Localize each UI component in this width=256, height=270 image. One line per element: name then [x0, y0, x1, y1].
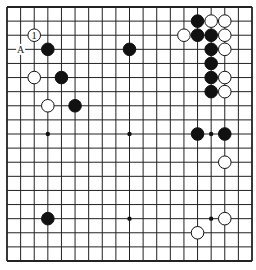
black-stone: [42, 43, 55, 56]
white-stone: [218, 15, 231, 28]
black-stone: [205, 57, 218, 70]
black-stone: [191, 15, 204, 28]
white-stone: [178, 29, 191, 42]
black-stone: [42, 212, 55, 225]
black-stone: [205, 85, 218, 98]
star-point: [127, 216, 131, 220]
white-stone: [218, 29, 231, 42]
go-board: 1A: [0, 0, 256, 270]
star-point: [127, 132, 131, 136]
star-point: [209, 132, 213, 136]
white-stone: [191, 226, 204, 239]
black-stone: [205, 71, 218, 84]
black-stone: [69, 99, 82, 112]
black-stone: [191, 128, 204, 141]
star-point: [46, 132, 50, 136]
black-stone: [55, 71, 68, 84]
letter-mark-label: A: [17, 44, 25, 55]
star-point: [209, 216, 213, 220]
black-stone: [218, 128, 231, 141]
white-stone: [218, 71, 231, 84]
white-stone: [42, 99, 55, 112]
black-stone: [205, 43, 218, 56]
go-board-diagram: 1A: [0, 0, 256, 270]
white-stone: [205, 15, 218, 28]
move-number-label: 1: [32, 30, 37, 41]
white-stone: [218, 43, 231, 56]
black-stone: [123, 43, 136, 56]
black-stone: [191, 29, 204, 42]
white-stone: [218, 156, 231, 169]
white-stone: [28, 71, 41, 84]
black-stone: [205, 29, 218, 42]
white-stone: [218, 85, 231, 98]
white-stone: [218, 212, 231, 225]
